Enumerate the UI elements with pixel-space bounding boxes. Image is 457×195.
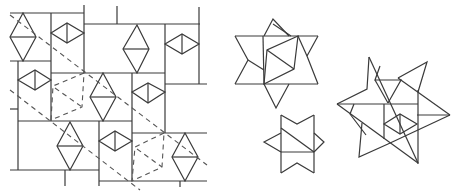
- star-large-right: [337, 57, 450, 164]
- dashed-fold-lines: [10, 15, 207, 190]
- diagram-canvas: [0, 0, 457, 195]
- rhombus-4: [165, 34, 199, 54]
- rhombus-5: [18, 70, 51, 90]
- rhombus-9: [99, 131, 132, 151]
- rhombus-2: [51, 23, 84, 43]
- star-right-inner-rhombus: [384, 114, 417, 134]
- tiling-grid-lines: [10, 5, 207, 187]
- rhombus-6: [90, 73, 116, 121]
- rhombus-10: [172, 133, 198, 181]
- star-small-bottom: [264, 115, 324, 173]
- rhombus-3: [123, 25, 149, 73]
- star-large-top: [235, 19, 318, 108]
- rhombus-1: [10, 13, 36, 61]
- tiling-panel: [10, 5, 207, 190]
- rhombus-7: [132, 83, 165, 103]
